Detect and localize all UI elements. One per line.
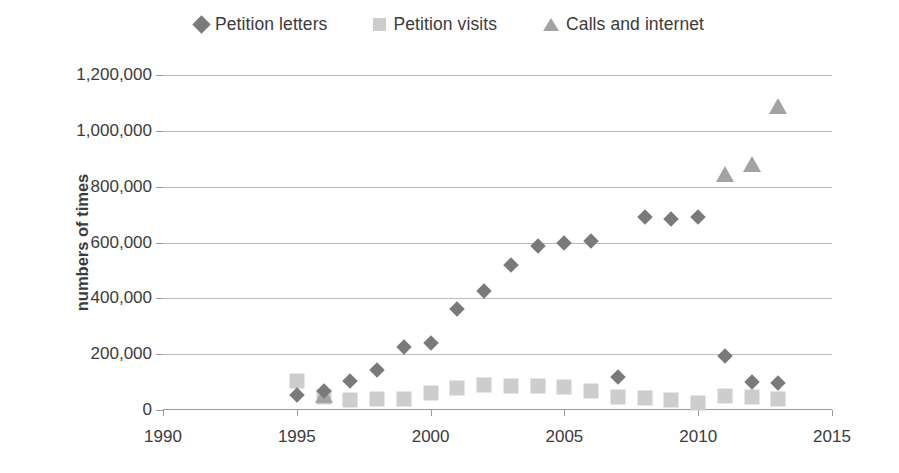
data-point-diamond xyxy=(316,384,331,399)
data-point-square xyxy=(584,384,599,399)
x-axis-tick-label: 2015 xyxy=(813,427,851,447)
data-point-diamond xyxy=(610,370,625,385)
legend-entry-2[interactable]: Calls and internet xyxy=(543,16,704,34)
data-point-diamond xyxy=(396,340,411,355)
data-point-square xyxy=(530,379,545,394)
diamond-icon xyxy=(192,16,210,34)
gridline xyxy=(163,131,832,132)
data-point-square xyxy=(477,377,492,392)
data-point-diamond xyxy=(637,209,652,224)
data-point-diamond xyxy=(450,302,465,317)
data-point-square xyxy=(423,385,438,400)
legend-entry-0[interactable]: Petition letters xyxy=(195,16,328,34)
y-axis-tick-label: 200,000 xyxy=(91,344,152,364)
y-axis-tick-label: 400,000 xyxy=(91,288,152,308)
data-point-square xyxy=(370,392,385,407)
data-point-square xyxy=(289,373,304,388)
data-point-diamond xyxy=(503,258,518,273)
data-point-diamond xyxy=(289,387,304,402)
y-axis-tick-label: 1,000,000 xyxy=(76,121,152,141)
data-point-square xyxy=(637,391,652,406)
y-axis-tick-label: 800,000 xyxy=(91,177,152,197)
data-point-diamond xyxy=(744,375,759,390)
legend-entry-1[interactable]: Petition visits xyxy=(373,16,497,34)
legend-label: Petition letters xyxy=(215,16,328,34)
y-axis-tick xyxy=(156,354,163,355)
y-axis-tick xyxy=(156,243,163,244)
x-axis-tick-label: 2000 xyxy=(412,427,450,447)
data-point-square xyxy=(744,390,759,405)
plot-area: 0200,000400,000600,000800,0001,000,0001,… xyxy=(163,75,832,410)
chart-legend: Petition lettersPetition visitsCalls and… xyxy=(0,16,899,34)
x-axis-line xyxy=(163,409,832,410)
x-axis-tick-label: 2010 xyxy=(679,427,717,447)
data-point-square xyxy=(503,379,518,394)
data-point-square xyxy=(664,392,679,407)
data-point-triangle xyxy=(716,166,734,182)
y-axis-tick xyxy=(156,410,163,411)
legend-label: Calls and internet xyxy=(566,16,704,34)
x-axis-tick xyxy=(431,410,432,416)
data-point-diamond xyxy=(691,210,706,225)
x-axis-tick-label: 2005 xyxy=(545,427,583,447)
scatter-chart: Petition lettersPetition visitsCalls and… xyxy=(0,0,899,473)
legend-label: Petition visits xyxy=(393,16,497,34)
data-point-diamond xyxy=(530,238,545,253)
square-icon xyxy=(373,18,386,31)
data-point-square xyxy=(717,389,732,404)
y-axis-tick-label: 1,200,000 xyxy=(76,65,152,85)
data-point-diamond xyxy=(423,335,438,350)
x-axis-tick xyxy=(297,410,298,416)
data-point-square xyxy=(450,380,465,395)
gridline xyxy=(163,187,832,188)
x-axis-tick xyxy=(564,410,565,416)
gridline xyxy=(163,243,832,244)
data-point-diamond xyxy=(584,233,599,248)
x-axis-tick-label: 1990 xyxy=(144,427,182,447)
y-axis-title-label: numbers of times xyxy=(73,174,92,312)
data-point-square xyxy=(610,390,625,405)
x-axis-tick-label: 1995 xyxy=(278,427,316,447)
data-point-diamond xyxy=(664,211,679,226)
y-axis-tick-label: 0 xyxy=(143,400,152,420)
y-axis-tick xyxy=(156,187,163,188)
data-point-square xyxy=(557,379,572,394)
data-point-diamond xyxy=(717,349,732,364)
data-point-square xyxy=(343,393,358,408)
y-axis-tick xyxy=(156,75,163,76)
data-point-square xyxy=(771,391,786,406)
x-axis-tick xyxy=(832,410,833,416)
data-point-diamond xyxy=(557,235,572,250)
data-point-diamond xyxy=(477,283,492,298)
data-point-square xyxy=(691,396,706,411)
data-point-square xyxy=(396,391,411,406)
data-point-diamond xyxy=(343,374,358,389)
data-point-diamond xyxy=(370,363,385,378)
triangle-icon xyxy=(543,18,559,31)
y-axis-tick xyxy=(156,298,163,299)
x-axis-tick xyxy=(163,410,164,416)
y-axis-tick-label: 600,000 xyxy=(91,233,152,253)
gridline xyxy=(163,75,832,76)
gridline xyxy=(163,298,832,299)
x-axis-tick xyxy=(698,410,699,416)
y-axis-tick xyxy=(156,131,163,132)
data-point-triangle xyxy=(769,98,787,114)
data-point-triangle xyxy=(743,156,761,172)
data-point-diamond xyxy=(771,376,786,391)
